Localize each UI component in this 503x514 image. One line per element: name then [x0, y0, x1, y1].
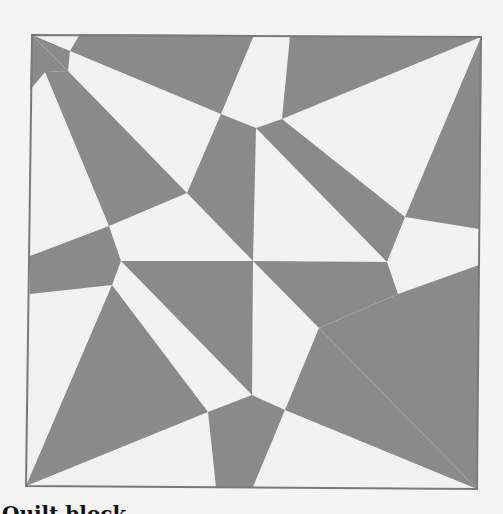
- quilt-block-figure: [0, 0, 503, 514]
- caption-text: Quilt block: [0, 504, 503, 514]
- caption-fragment: Quilt block: [0, 500, 503, 514]
